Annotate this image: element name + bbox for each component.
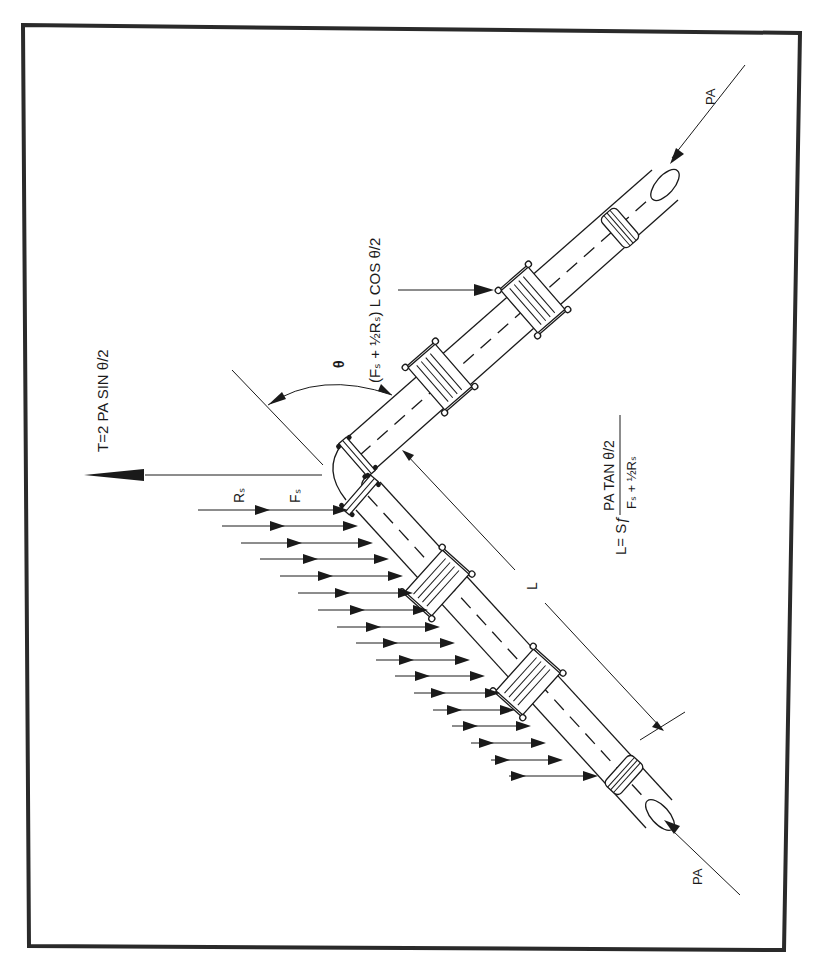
soil-arrow — [452, 721, 531, 731]
soil-arrow — [509, 771, 598, 781]
friction-force-equation: (Fₛ + ½Rₛ) L COS θ/2 — [366, 238, 383, 383]
soil-arrow — [471, 738, 546, 748]
pipe-upper-leg — [348, 65, 745, 471]
soil-resistance-label: Rₛ — [231, 488, 247, 503]
thrust-arrow — [84, 469, 322, 481]
soil-arrow — [198, 505, 348, 515]
soil-arrow — [414, 688, 500, 698]
restrained-coupling-upper-2 — [401, 337, 479, 417]
length-equation-numerator: PA TAN θ/2 — [601, 440, 617, 511]
soil-arrow — [260, 554, 389, 564]
soil-arrow — [241, 538, 373, 548]
plain-coupling-upper — [599, 206, 640, 249]
length-equation-denominator: Fₛ + ½Rₛ — [624, 456, 639, 509]
pipe-lower-leg — [356, 482, 740, 895]
friction-force-arrow — [398, 284, 494, 296]
restrained-coupling-upper-1 — [494, 260, 572, 340]
soil-arrow — [222, 521, 358, 531]
length-equation: L= Sƒ PA TAN θ/2 Fₛ + ½Rₛ — [601, 415, 639, 555]
drawing-border — [23, 25, 800, 950]
soil-arrow — [356, 638, 455, 648]
friction-label: Fₛ — [287, 489, 303, 503]
thrust-equation-label: T=2 PA SIN θ/2 — [94, 349, 111, 452]
angle-theta-indicator — [232, 370, 392, 465]
length-equation-lhs: L= Sƒ — [612, 515, 629, 555]
soil-arrow — [298, 588, 413, 598]
pipe-bend-thrust-diagram: T=2 PA SIN θ/2 θ (Fₛ + ½Rₛ) L COS θ/2 PA — [0, 0, 822, 963]
soil-arrow — [376, 655, 470, 665]
length-label: L — [524, 582, 540, 590]
pa-label-bottom: PA — [690, 868, 705, 885]
restrained-coupling-lower-1 — [398, 543, 476, 623]
soil-arrow — [280, 571, 403, 581]
pipe-elbow — [333, 434, 382, 518]
soil-arrow — [491, 755, 563, 765]
pa-label-top: PA — [703, 88, 718, 105]
soil-arrow — [433, 705, 515, 715]
soil-arrow — [318, 605, 428, 615]
soil-arrow — [337, 622, 440, 632]
soil-arrow — [395, 671, 485, 681]
soil-resistance-arrows — [198, 505, 598, 781]
angle-theta-label: θ — [331, 360, 347, 368]
